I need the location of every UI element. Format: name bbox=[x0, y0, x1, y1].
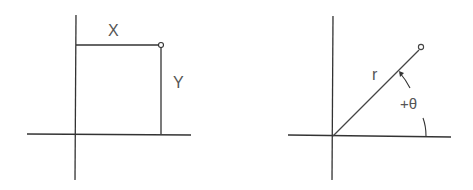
coordinate-systems-figure: X Y r +θ bbox=[0, 0, 473, 190]
y-label: Y bbox=[173, 74, 184, 91]
x-label: X bbox=[108, 22, 119, 39]
radius-line bbox=[333, 50, 419, 136]
angle-arrowhead-icon bbox=[399, 71, 404, 77]
polar-y-axis bbox=[332, 16, 333, 180]
radius-label: r bbox=[372, 66, 378, 83]
polar-diagram: r +θ bbox=[288, 16, 451, 180]
cartesian-point bbox=[159, 43, 164, 48]
cartesian-diagram: X Y bbox=[27, 15, 191, 180]
polar-point bbox=[418, 44, 423, 49]
angle-label: +θ bbox=[400, 95, 417, 112]
cartesian-x-axis bbox=[27, 134, 191, 135]
cartesian-y-axis bbox=[75, 15, 76, 180]
angle-arc bbox=[423, 118, 426, 136]
